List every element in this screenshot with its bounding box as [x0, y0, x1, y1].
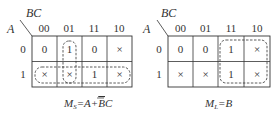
cell: 0 [203, 43, 209, 55]
col-label: 11 [226, 22, 237, 34]
cell: 1 [228, 68, 234, 80]
cell: × [177, 68, 183, 80]
col-var-label: BC [161, 6, 177, 20]
row-var-label: A [142, 22, 151, 36]
cell: 1 [92, 68, 98, 80]
cell: × [254, 68, 260, 80]
caption-ms: MS=A+BC [63, 97, 113, 111]
kmap-ms: BC A 00 01 11 10 0 1 0 1 0 × × × 1 × MS=… [6, 6, 132, 111]
cell: × [41, 68, 47, 80]
cell: × [116, 43, 122, 55]
cell: 0 [42, 43, 48, 55]
cell: × [254, 43, 260, 55]
col-label: 01 [64, 22, 75, 34]
caption-ml: ML=B [204, 97, 233, 111]
diagonal-divider [157, 20, 168, 36]
cell: 0 [178, 43, 184, 55]
row-label: 1 [20, 68, 26, 80]
col-label: 00 [39, 22, 51, 34]
row-var-label: A [6, 22, 15, 36]
row-label: 1 [156, 68, 162, 80]
row-label: 0 [156, 43, 162, 55]
cell: × [66, 68, 72, 80]
cell: × [202, 68, 208, 80]
col-var-label: BC [26, 6, 42, 20]
col-label: 11 [89, 22, 100, 34]
cell: 0 [92, 43, 98, 55]
col-label: 10 [252, 22, 264, 34]
cell: × [116, 68, 122, 80]
diagonal-divider [20, 20, 32, 36]
row-label: 0 [20, 43, 26, 55]
col-label: 01 [200, 22, 211, 34]
karnaugh-maps: BC A 00 01 11 10 0 1 0 1 0 × × × 1 × MS=… [0, 0, 278, 116]
col-label: 10 [114, 22, 126, 34]
cell: 1 [228, 43, 234, 55]
col-label: 00 [175, 22, 187, 34]
kmap-ml: BC A 00 01 11 10 0 1 0 0 1 × × × 1 × ML=… [142, 6, 270, 111]
cell: 1 [67, 43, 73, 55]
